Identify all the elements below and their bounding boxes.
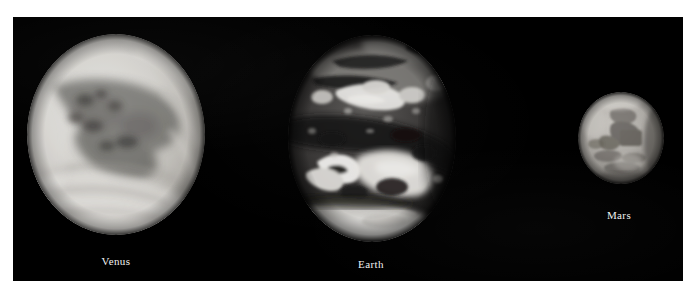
image-plate <box>13 17 683 281</box>
planet-label-mars: Mars <box>559 209 679 221</box>
planet-label-earth: Earth <box>311 258 431 270</box>
venus-artwork <box>27 34 205 235</box>
planet-label-venus: Venus <box>56 255 176 267</box>
planet-disc-venus <box>27 34 205 235</box>
planet-disc-mars <box>578 92 664 184</box>
earth-artwork <box>288 35 456 242</box>
mars-artwork <box>578 92 664 184</box>
planet-disc-earth <box>288 35 456 242</box>
planet-comparison-figure: Venus Earth Mars <box>0 0 695 295</box>
